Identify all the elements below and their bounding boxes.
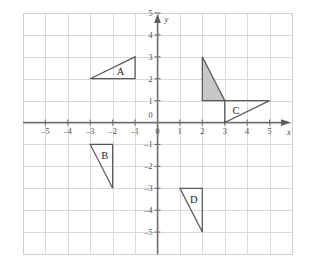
y-tick-label: –4 bbox=[143, 206, 152, 215]
shaded-triangle bbox=[202, 57, 224, 101]
x-tick-label: 4 bbox=[245, 127, 249, 136]
x-tick-label: –1 bbox=[130, 127, 139, 136]
y-tick-label: 4 bbox=[148, 31, 152, 40]
y-tick-label: 1 bbox=[148, 97, 152, 106]
y-tick-label: –2 bbox=[143, 162, 152, 171]
y-tick-label: –5 bbox=[143, 228, 152, 237]
y-tick-label: 5 bbox=[148, 9, 152, 18]
triangle-A bbox=[90, 57, 135, 79]
axis-names: xy bbox=[164, 14, 292, 137]
x-tick-label: –5 bbox=[40, 127, 49, 136]
coordinate-plot-svg: –5–4–3–2–1012345–5–4–3–2–1123450 xy ABCD bbox=[0, 0, 309, 268]
x-tick-label: –3 bbox=[85, 127, 94, 136]
y-tick-label: 3 bbox=[148, 53, 152, 62]
x-tick-label: 0 bbox=[155, 127, 159, 136]
x-tick-label: –2 bbox=[108, 127, 117, 136]
y-tick-label: 2 bbox=[148, 75, 152, 84]
x-axis-name: x bbox=[286, 127, 291, 137]
shape-label-A: A bbox=[117, 66, 125, 77]
x-tick-label: 1 bbox=[178, 127, 182, 136]
shape-label-D: D bbox=[190, 194, 198, 205]
shape-labels: ABCD bbox=[101, 66, 239, 205]
y-axis-name: y bbox=[164, 14, 169, 24]
x-tick-label: –4 bbox=[63, 127, 72, 136]
shape-label-C: C bbox=[232, 105, 239, 116]
y-tick-label-zero: 0 bbox=[148, 111, 152, 120]
y-tick-label: –1 bbox=[143, 140, 152, 149]
y-tick-label: –3 bbox=[143, 184, 152, 193]
x-tick-label: 3 bbox=[223, 127, 227, 136]
coordinate-plane-figure: –5–4–3–2–1012345–5–4–3–2–1123450 xy ABCD bbox=[0, 0, 309, 268]
x-tick-label: 5 bbox=[268, 127, 272, 136]
x-tick-label: 2 bbox=[200, 127, 204, 136]
shape-label-B: B bbox=[101, 150, 108, 161]
